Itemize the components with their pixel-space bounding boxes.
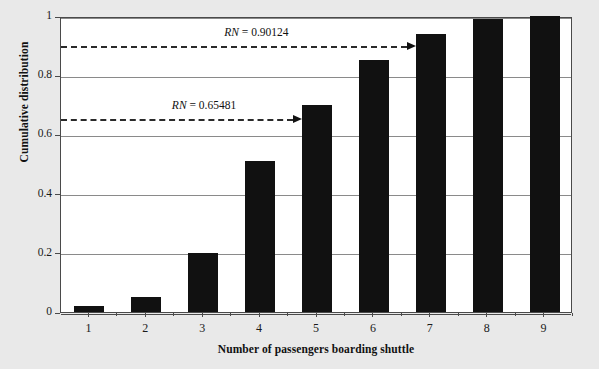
- y-tick-label: 0.2: [18, 246, 52, 258]
- x-tick-label: 7: [410, 321, 450, 336]
- plot-area: RN = 0.90124RN = 0.65481: [60, 17, 572, 313]
- y-tick-label: 0.4: [18, 187, 52, 199]
- bar: [74, 306, 104, 312]
- y-tick-label: 0: [18, 305, 52, 317]
- x-tick-label: 5: [296, 321, 336, 336]
- x-tick-label: 2: [125, 321, 165, 336]
- annotation-value: = 0.90124: [239, 26, 289, 38]
- annotation-dashed-line: [61, 119, 293, 121]
- gridline: [61, 314, 571, 315]
- x-axis-title: Number of passengers boarding shuttle: [60, 343, 572, 355]
- annotation-symbol: RN: [172, 99, 187, 111]
- y-tick-label: 0.8: [18, 68, 52, 80]
- x-tick-label: 3: [182, 321, 222, 336]
- y-tick-label: 1: [18, 9, 52, 21]
- bar: [302, 105, 332, 312]
- bar: [416, 34, 446, 312]
- annotation-label: RN = 0.65481: [172, 99, 236, 111]
- annotation-value: = 0.65481: [187, 99, 237, 111]
- annotation-arrow-head: [293, 115, 302, 123]
- annotation-symbol: RN: [224, 26, 239, 38]
- x-tick-label: 6: [353, 321, 393, 336]
- y-axis-title: Cumulative distribution: [18, 2, 30, 202]
- x-tick-label: 4: [239, 321, 279, 336]
- bar: [188, 253, 218, 312]
- figure: Cumulative distribution Number of passen…: [0, 0, 599, 369]
- annotation-arrow-head: [407, 42, 416, 50]
- plot-inner: RN = 0.90124RN = 0.65481: [61, 18, 571, 312]
- y-tick-label: 0.6: [18, 127, 52, 139]
- bar: [131, 297, 161, 312]
- bar: [359, 60, 389, 312]
- x-tick-mark-minor: [572, 313, 573, 316]
- x-tick-label: 1: [68, 321, 108, 336]
- bar: [245, 161, 275, 312]
- x-tick-label: 9: [524, 321, 564, 336]
- bar: [530, 16, 560, 312]
- bar: [473, 19, 503, 312]
- x-tick-label: 8: [467, 321, 507, 336]
- annotation-label: RN = 0.90124: [224, 26, 288, 38]
- annotation-dashed-line: [61, 46, 407, 48]
